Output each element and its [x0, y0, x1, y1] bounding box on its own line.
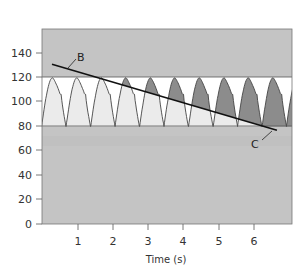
y-tick-label: 100 — [11, 95, 32, 108]
x-tick-label: 6 — [251, 235, 258, 248]
x-tick-label: 2 — [110, 235, 117, 248]
y-tick-label: 60 — [18, 144, 32, 157]
label-b: B — [77, 51, 85, 64]
x-tick-label: 4 — [180, 235, 187, 248]
x-axis: 1 2 3 4 5 6 Time (s) — [75, 224, 258, 265]
x-tick-label: 3 — [145, 235, 152, 248]
y-tick-label: 140 — [11, 47, 32, 60]
y-tick-label: 80 — [18, 120, 32, 133]
x-tick-label: 1 — [75, 235, 82, 248]
y-tick-label: 120 — [11, 71, 32, 84]
y-tick-label: 40 — [18, 169, 32, 182]
pressure-chart: B C 140 120 100 80 60 40 20 0 1 2 3 4 5 … — [0, 0, 301, 276]
label-c: C — [251, 138, 259, 151]
y-tick-label: 0 — [25, 218, 32, 231]
y-tick-label: 20 — [18, 193, 32, 206]
x-axis-title: Time (s) — [145, 254, 187, 265]
x-tick-label: 5 — [216, 235, 223, 248]
y-axis: 140 120 100 80 60 40 20 0 — [11, 47, 42, 231]
